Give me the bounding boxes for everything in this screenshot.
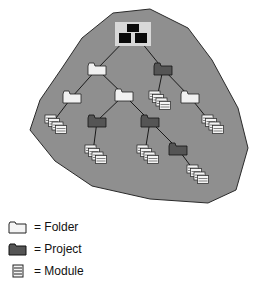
root-repository-icon xyxy=(115,22,151,46)
hierarchy-diagram xyxy=(0,0,254,210)
legend-item-module: = Module xyxy=(6,260,84,282)
folder-icon xyxy=(6,220,30,234)
project-icon xyxy=(6,242,30,256)
legend: = Folder = Project = Module xyxy=(6,216,84,282)
module-icon xyxy=(6,264,30,278)
legend-item-project: = Project xyxy=(6,238,84,260)
legend-label-module: = Module xyxy=(34,264,84,278)
legend-label-project: = Project xyxy=(34,242,82,256)
legend-label-folder: = Folder xyxy=(34,220,78,234)
legend-item-folder: = Folder xyxy=(6,216,84,238)
